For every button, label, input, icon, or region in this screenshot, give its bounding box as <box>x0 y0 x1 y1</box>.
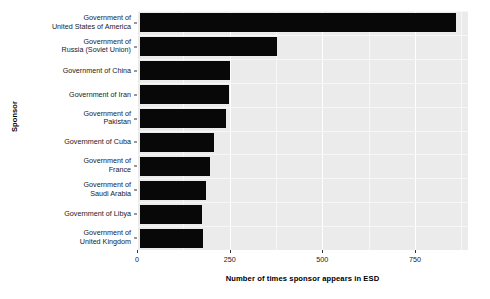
bar <box>140 109 226 128</box>
gridline-minor-horizontal <box>137 35 468 36</box>
bar-chart: Sponsor Government of United KingdomGove… <box>0 0 490 299</box>
bar <box>140 85 229 104</box>
y-axis-tick-label: Government of Iran <box>18 90 131 99</box>
gridline-minor-horizontal <box>137 178 468 179</box>
bar <box>140 181 206 200</box>
gridline-minor-horizontal <box>137 59 468 60</box>
bar <box>140 157 210 176</box>
y-axis-tick-label: Government of China <box>18 66 131 75</box>
x-axis-tick-label: 750 <box>395 255 435 264</box>
x-axis-tick-label: 500 <box>302 255 342 264</box>
y-axis-tick-mark <box>134 70 137 71</box>
y-axis-tick-mark <box>134 22 137 23</box>
x-axis-tick-mark <box>230 250 231 253</box>
y-axis-tick-label: Government of United Kingdom <box>18 229 131 246</box>
bar <box>140 13 456 32</box>
y-axis-tick-mark <box>134 94 137 95</box>
bar <box>140 61 230 80</box>
bar <box>140 37 277 56</box>
bar <box>140 133 214 152</box>
y-axis-tick-labels: Government of United KingdomGovernment o… <box>18 11 131 250</box>
gridline-minor-horizontal <box>137 83 468 84</box>
y-axis-tick-label: Government of France <box>18 158 131 175</box>
x-axis-tick-label: 250 <box>210 255 250 264</box>
x-axis-tick-mark <box>415 250 416 253</box>
y-axis-tick-label: Government of Russia (Soviet Union) <box>18 38 131 55</box>
x-axis-tick-mark <box>137 250 138 253</box>
gridline-minor-horizontal <box>137 131 468 132</box>
gridline-minor-horizontal <box>137 226 468 227</box>
y-axis-tick-mark <box>134 166 137 167</box>
y-axis-tick-label: Government of Pakistan <box>18 110 131 127</box>
gridline-minor-horizontal <box>137 154 468 155</box>
bar <box>140 205 202 224</box>
gridline-minor-horizontal <box>137 11 468 12</box>
plot-panel <box>137 11 468 250</box>
y-axis-tick-mark <box>134 142 137 143</box>
y-axis-tick-label: Government of United States of America <box>18 14 131 31</box>
y-axis-tick-mark <box>134 46 137 47</box>
x-axis-tick-label: 0 <box>117 255 157 264</box>
y-axis-tick-mark <box>134 238 137 239</box>
y-axis-tick-mark <box>134 214 137 215</box>
y-axis-tick-mark <box>134 190 137 191</box>
bar <box>140 229 203 248</box>
y-axis-tick-label: Government of Saudi Arabia <box>18 182 131 199</box>
gridline-minor-horizontal <box>137 202 468 203</box>
x-axis-tick-mark <box>322 250 323 253</box>
gridline-minor-horizontal <box>137 107 468 108</box>
x-axis-title: Number of times sponsor appears in ESD <box>137 274 468 283</box>
y-axis-tick-label: Government of Cuba <box>18 138 131 147</box>
y-axis-tick-label: Government of Libya <box>18 210 131 219</box>
y-axis-tick-mark <box>134 118 137 119</box>
